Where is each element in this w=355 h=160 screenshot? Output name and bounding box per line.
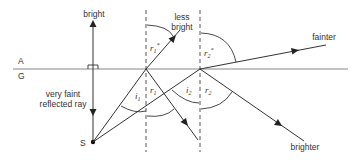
angle-arc-r1 [147,109,174,116]
incident-ray-2 [93,69,200,142]
angle-label-i1: i1 [135,91,141,102]
medium-label-a: A [18,56,24,66]
label-reflected-ray: reflected ray [40,99,88,109]
arrow-icon [291,48,299,55]
angle-label-r2: r2 [205,85,212,96]
label-less: less [174,12,189,22]
angle-label-r1: r1 [150,85,157,96]
refraction-diagram: A G bright very faint reflected ray S le… [0,0,355,160]
label-fainter: fainter [312,32,336,42]
refracted-ray-2 [200,45,326,69]
arrow-icon [274,119,282,126]
angle-arc-r1-star [147,25,173,36]
label-bright: bright [83,9,105,19]
medium-label-g: G [18,71,25,81]
arrow-down-icon [90,109,97,116]
label-bright-2: bright [171,22,193,32]
angle-label-i2: i2 [186,85,192,96]
angle-label-r2-star: r2* [204,47,214,59]
reflected-ray-2 [200,69,304,141]
angle-label-r1-star: r1* [150,42,160,54]
incident-ray-1 [93,69,146,142]
label-brighter: brighter [291,142,320,152]
label-very-faint: very faint [46,89,81,99]
label-source: S [80,138,86,148]
arrow-icon [181,118,189,126]
arrow-up-icon [90,20,97,27]
reflected-ray-1 [146,69,198,140]
